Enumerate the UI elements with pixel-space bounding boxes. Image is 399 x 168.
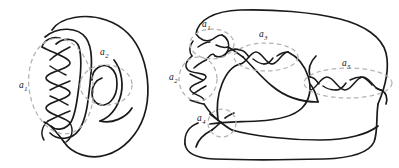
figure-canvas: .k{fill:none;stroke:#1a1a1a;stroke-width… [0,0,399,168]
knot-link-diagram-figure: .k{fill:none;stroke:#1a1a1a;stroke-width… [0,0,399,168]
